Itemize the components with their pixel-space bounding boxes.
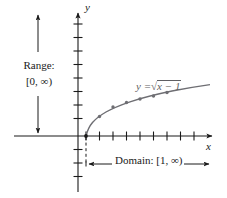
function-curve — [84, 85, 210, 138]
range-label: Range: [0, ∞) — [8, 60, 70, 87]
range-label-line2: [0, ∞) — [8, 76, 70, 87]
sqrt-curve-path — [86, 85, 210, 136]
x-axis — [14, 132, 212, 141]
y-axis-label: y — [85, 2, 90, 13]
equation-radicand: x − 1 — [157, 80, 181, 92]
equation-lhs: y = — [136, 80, 151, 92]
equation-label: y =√x − 1 — [136, 80, 181, 92]
range-label-line1: Range: — [23, 59, 54, 71]
y-axis — [74, 13, 83, 192]
figure-canvas: Range: [0, ∞) Domain: [1, ∞) y =√x − 1 x… — [0, 0, 227, 198]
x-axis-label: x — [206, 141, 211, 152]
graph-svg — [0, 0, 227, 198]
curve-data-points — [98, 91, 169, 118]
domain-label: Domain: [1, ∞) — [113, 155, 184, 166]
